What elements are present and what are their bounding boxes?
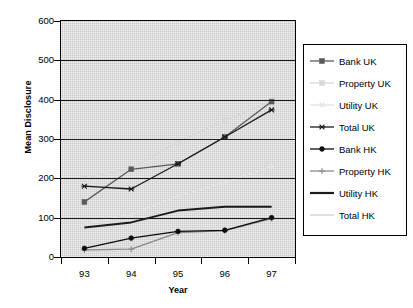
legend-marker-icon: [309, 142, 335, 156]
x-axis-tick-label: 95: [158, 268, 198, 279]
y-axis-tick-label: 500: [22, 55, 54, 65]
legend-marker-icon: [309, 186, 335, 200]
gridline: [61, 139, 295, 140]
x-axis-tick-mark: [61, 258, 62, 264]
x-axis-tick-label: 97: [252, 268, 292, 279]
x-axis-tick-label: 93: [64, 268, 104, 279]
x-axis-title: Year: [60, 285, 296, 295]
legend-item-label: Property UK: [339, 78, 391, 89]
legend-item-utility-uk: Utility UK: [304, 94, 406, 116]
legend-marker-icon: [309, 208, 335, 222]
legend-item-total-hk: Total HK: [304, 204, 406, 226]
y-axis-tick-mark: [54, 218, 60, 219]
series-bank-hk: [82, 215, 274, 250]
legend-item-bank-hk: Bank HK: [304, 138, 406, 160]
y-axis-tick-label: 200: [22, 173, 54, 183]
y-axis-tick-label: 300: [22, 134, 54, 144]
x-axis-tick-mark: [155, 258, 156, 264]
legend-item-label: Total UK: [339, 122, 375, 133]
y-axis-tick-label: 100: [22, 213, 54, 223]
y-axis-tick-mark: [54, 60, 60, 61]
plot-area: [60, 20, 296, 258]
series-property-hk: [81, 215, 274, 252]
legend-item-label: Utility UK: [339, 100, 378, 111]
gridline: [61, 60, 295, 61]
gridline: [61, 218, 295, 219]
legend-item-bank-uk: Bank UK: [304, 50, 406, 72]
legend-marker-icon: [309, 98, 335, 112]
legend-item-label: Property HK: [339, 166, 391, 177]
x-axis-tick-label: 94: [111, 268, 151, 279]
x-axis-tick-mark: [295, 258, 296, 264]
legend-item-property-hk: Property HK: [304, 160, 406, 182]
legend-item-label: Total HK: [339, 210, 375, 221]
legend-item-label: Bank UK: [339, 56, 377, 67]
line-chart: Mean Disclosure 6005004003002001000 9394…: [0, 0, 413, 308]
legend-item-property-uk: Property UK: [304, 72, 406, 94]
y-axis-tick-label: 0: [22, 252, 54, 262]
legend-marker-icon: [309, 76, 335, 90]
legend-item-utility-hk: Utility HK: [304, 182, 406, 204]
legend-item-label: Bank HK: [339, 144, 377, 155]
y-axis-tick-mark: [54, 257, 60, 258]
chart-legend: Bank UKProperty UKUtility UKTotal UKBank…: [303, 44, 407, 236]
x-axis-tick-mark: [248, 258, 249, 264]
legend-marker-icon: [309, 54, 335, 68]
x-axis-tick-label: 96: [205, 268, 245, 279]
legend-item-total-uk: Total UK: [304, 116, 406, 138]
gridline: [61, 100, 295, 101]
y-axis-tick-label: 400: [22, 95, 54, 105]
y-axis-tick-mark: [54, 21, 60, 22]
gridline: [61, 178, 295, 179]
legend-marker-icon: [309, 164, 335, 178]
y-axis-tick-mark: [54, 139, 60, 140]
y-axis-tick-label: 600: [22, 16, 54, 26]
legend-marker-icon: [309, 120, 335, 134]
x-axis-tick-mark: [201, 258, 202, 264]
x-axis-tick-mark: [108, 258, 109, 264]
y-axis-tick-mark: [54, 100, 60, 101]
legend-item-label: Utility HK: [339, 188, 378, 199]
series-bank-uk: [82, 99, 274, 204]
y-axis-tick-mark: [54, 178, 60, 179]
y-axis-tick-labels: 6005004003002001000: [14, 0, 54, 308]
